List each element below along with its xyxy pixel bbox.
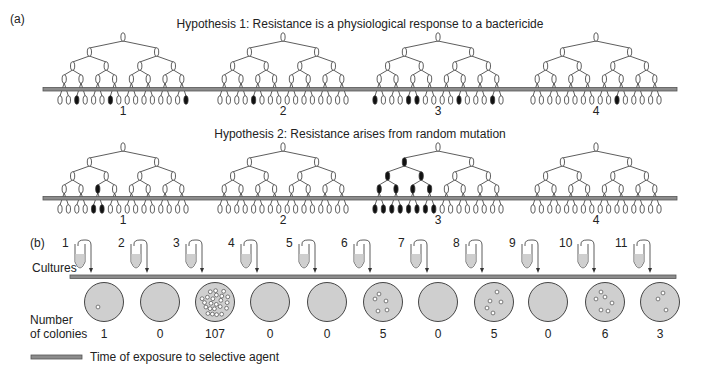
- colony-dot: [212, 307, 216, 311]
- bacterium-cell: [470, 158, 474, 166]
- bacterium-cell: [560, 158, 564, 166]
- bacterium-cell: [277, 205, 281, 213]
- colony-dot: [603, 295, 607, 299]
- bacterium-cell: [432, 96, 436, 104]
- bacterium-cell: [222, 185, 226, 193]
- bacterium-cell: [428, 185, 432, 193]
- bacterium-cell: [556, 205, 560, 213]
- bacterium-cell: [436, 143, 440, 151]
- bacterium-cell: [336, 205, 340, 213]
- bacterium-cell: [66, 205, 70, 213]
- bacterium-cell: [495, 185, 499, 193]
- bacterium-cell: [611, 62, 615, 70]
- bacterium-cell: [640, 96, 644, 104]
- bacterium-cell: [552, 185, 556, 193]
- lineage-tree-3: [373, 143, 503, 213]
- bacterium-cell: [535, 75, 539, 83]
- lineage-tree-2: [218, 33, 348, 104]
- bacterium-cell: [607, 96, 611, 104]
- bacterium-cell: [171, 62, 175, 70]
- bacterium-cell: [565, 96, 569, 104]
- bacterium-cell: [87, 158, 91, 166]
- bacterium-cell: [226, 205, 230, 213]
- colony-dot: [211, 297, 215, 301]
- resistant-cell: [491, 96, 495, 104]
- petri-plate-icon: [475, 283, 514, 322]
- bacterium-cell: [218, 205, 222, 213]
- bacterium-cell: [129, 75, 133, 83]
- bacterium-cell: [281, 33, 285, 41]
- petri-plate-icon: [529, 283, 568, 322]
- bacterium-cell: [243, 205, 247, 213]
- bacterium-cell: [402, 158, 406, 166]
- resistant-cell: [432, 205, 436, 213]
- bacterium-cell: [306, 75, 310, 83]
- bacterium-cell: [644, 62, 648, 70]
- colony-dot: [206, 295, 210, 299]
- bacterium-cell: [298, 62, 302, 70]
- colony-dot: [225, 306, 229, 310]
- legend-exposure-swatch: [31, 355, 82, 359]
- bacterium-cell: [310, 205, 314, 213]
- bacterium-cell: [461, 75, 465, 83]
- bacterium-cell: [298, 172, 302, 180]
- bacterium-cell: [615, 205, 619, 213]
- resistant-cell: [390, 205, 394, 213]
- colony-dot: [485, 306, 489, 310]
- colony-dot: [214, 289, 218, 293]
- colony-dot: [594, 297, 598, 301]
- bacterium-cell: [636, 185, 640, 193]
- bacterium-cell: [552, 75, 556, 83]
- colony-dot: [220, 312, 224, 316]
- hypothesis-2-trees: [43, 143, 677, 213]
- bacterium-cell: [482, 205, 486, 213]
- bacterium-cell: [640, 205, 644, 213]
- bacterium-cell: [340, 185, 344, 193]
- bacterium-cell: [548, 205, 552, 213]
- bacterium-cell: [573, 205, 577, 213]
- bacterium-cell: [285, 205, 289, 213]
- bacterium-cell: [457, 205, 461, 213]
- bacterium-cell: [235, 96, 239, 104]
- colony-dot: [606, 309, 610, 313]
- colony-dot: [214, 293, 218, 297]
- exposure-bar: [43, 197, 677, 201]
- culture-1: [75, 240, 124, 322]
- resistant-cell: [184, 96, 188, 104]
- bacterium-cell: [138, 172, 142, 180]
- resistant-cell: [252, 96, 256, 104]
- bacterium-cell: [96, 75, 100, 83]
- bacterium-cell: [590, 96, 594, 104]
- bacterium-cell: [75, 205, 79, 213]
- resistant-cell: [415, 205, 419, 213]
- bacterium-cell: [394, 185, 398, 193]
- bacterium-cell: [440, 96, 444, 104]
- bacterium-cell: [129, 185, 133, 193]
- colony-dot: [200, 297, 204, 301]
- bacterium-cell: [134, 205, 138, 213]
- bacterium-cell: [482, 96, 486, 104]
- bacterium-cell: [264, 172, 268, 180]
- bacterium-cell: [331, 172, 335, 180]
- bacterium-cell: [62, 75, 66, 83]
- bacterium-cell: [83, 96, 87, 104]
- bacterium-cell: [453, 172, 457, 180]
- petri-plate-icon: [419, 283, 458, 322]
- bacterium-cell: [569, 75, 573, 83]
- lineage-tree-4: [531, 143, 661, 213]
- bacterium-cell: [294, 96, 298, 104]
- resistant-cell: [75, 96, 79, 104]
- colony-dot: [491, 311, 495, 315]
- legend-swatch: [31, 355, 82, 359]
- bacterium-cell: [449, 96, 453, 104]
- bacterium-cell: [176, 205, 180, 213]
- colony-dot: [222, 289, 226, 293]
- bacterium-cell: [163, 185, 167, 193]
- bacterium-cell: [87, 48, 91, 56]
- culture-6: [354, 240, 403, 322]
- bacterium-cell: [125, 96, 129, 104]
- bacterium-cell: [79, 75, 83, 83]
- resistant-cell: [92, 205, 96, 213]
- bacterium-cell: [150, 205, 154, 213]
- lineage-tree-2: [218, 143, 348, 213]
